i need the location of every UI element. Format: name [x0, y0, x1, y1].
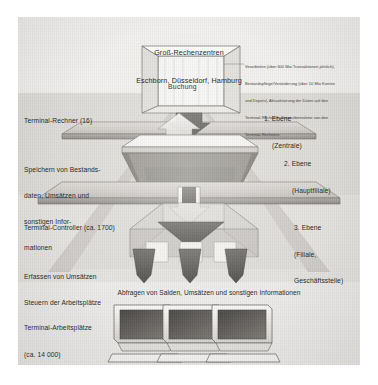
- mainframe-box-label: Buchung: [168, 83, 197, 92]
- terminal-controller-heading: Terminal-Controller (ca. 1700): [24, 224, 115, 233]
- level-1-number: 1. Ebene: [264, 115, 302, 124]
- terminal-arbeitsplaetze-line-1: (ca. 14 000): [24, 351, 94, 360]
- workstation-3: [206, 305, 280, 362]
- terminal-arbeitsplaetze-label: Terminal-Arbeitsplätze (ca. 14 000) sowi…: [24, 307, 94, 365]
- level-3-name-2: Geschäftsstelle): [294, 277, 343, 286]
- flow-arrows-level3: [133, 249, 247, 283]
- terminal-rechner-heading: Terminal-Rechner (16): [24, 117, 101, 126]
- terminal-controller-line-1: Erfassen von Umsätzen: [24, 273, 115, 282]
- terminal-rechner-line-1: Speichern von Bestands-: [24, 166, 101, 175]
- level-3-name-1: (Filiale,: [294, 251, 343, 260]
- terminal-arbeitsplaetze-heading: Terminal-Arbeitsplätze: [24, 324, 94, 333]
- terminal-rechner-unit: [122, 135, 258, 188]
- level-2-name: (Hauptfiliale): [284, 187, 331, 196]
- level-2-label: 2. Ebene (Hauptfiliale): [284, 143, 331, 213]
- level-3-number: 3. Ebene: [294, 224, 343, 233]
- query-flow-caption: Abfragen von Salden, Umsätzen und sonsti…: [84, 289, 334, 298]
- diagram-page: Groß-Rechenzentren Eschborn, Düsseldorf,…: [0, 0, 378, 385]
- terminal-rechner-line-2: daten, Umsätzen und: [24, 192, 101, 201]
- level-2-number: 2. Ebene: [284, 160, 331, 169]
- description-line-1: Verarbeiten (über 600 Mio Transaktionen …: [245, 64, 357, 70]
- workstation-group: [108, 305, 280, 362]
- description-line-2: Bestandspflege/Veränderung (über 10 Mio …: [245, 81, 357, 87]
- scanned-diagram-panel: Groß-Rechenzentren Eschborn, Düsseldorf,…: [18, 17, 360, 365]
